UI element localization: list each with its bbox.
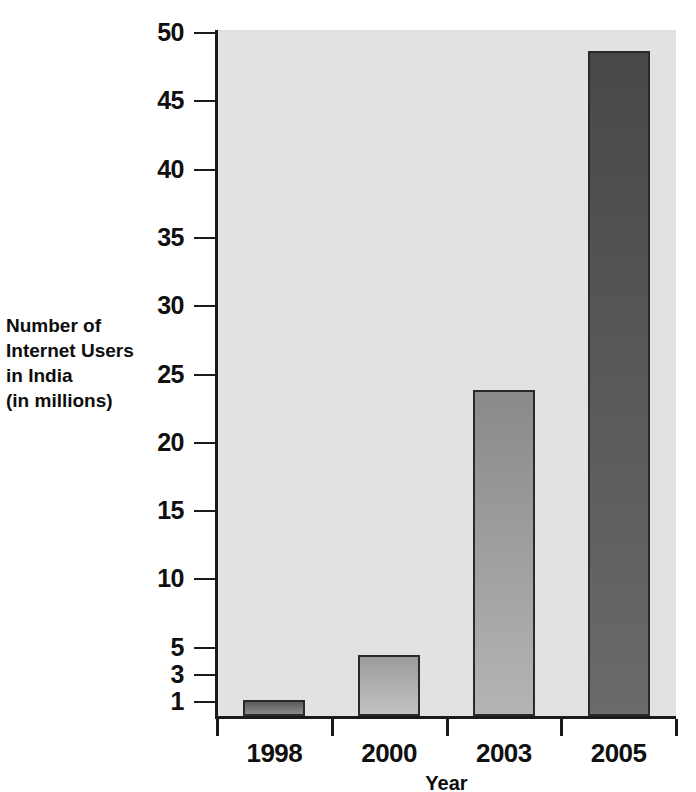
- x-axis-tick-label-2005: 2005: [561, 740, 676, 766]
- x-axis-tick-label-2000: 2000: [332, 740, 447, 766]
- y-axis-tick-label: 45: [140, 88, 184, 113]
- y-axis-tick-label: 10: [140, 566, 184, 591]
- bar-1998: [243, 700, 305, 716]
- y-axis-line: [215, 30, 218, 719]
- y-axis-title: Number of Internet Users in India (in mi…: [6, 313, 156, 413]
- x-axis-tick: [675, 719, 678, 736]
- y-axis-tick: [194, 647, 215, 649]
- y-axis-tick-label: 1: [140, 689, 184, 714]
- y-axis-tick: [194, 674, 215, 676]
- x-axis-tick: [331, 719, 334, 736]
- y-axis-tick: [194, 701, 215, 703]
- x-axis-tick: [446, 719, 449, 736]
- y-axis-tick: [194, 305, 215, 307]
- y-axis-tick-label: 15: [140, 498, 184, 523]
- y-axis-tick: [194, 510, 215, 512]
- y-axis-tick: [194, 169, 215, 171]
- y-axis-tick: [194, 578, 215, 580]
- y-axis-tick-label: 3: [140, 662, 184, 687]
- y-axis-title-line-2: Internet Users: [6, 338, 156, 363]
- y-axis-tick: [194, 100, 215, 102]
- x-axis-tick-label-1998: 1998: [217, 740, 332, 766]
- y-axis-tick: [194, 237, 215, 239]
- y-axis-tick: [194, 374, 215, 376]
- bar-chart: 135101520253035404550 1998200020032005 N…: [0, 0, 696, 792]
- y-axis-title-line-3: in India: [6, 363, 156, 388]
- x-axis-title: Year: [217, 772, 676, 792]
- x-axis-tick-label-2003: 2003: [447, 740, 562, 766]
- y-axis-tick-label: 40: [140, 157, 184, 182]
- y-axis-tick-label: 5: [140, 635, 184, 660]
- x-axis-tick: [216, 719, 219, 736]
- bar-2000: [358, 655, 420, 716]
- y-axis-tick: [194, 442, 215, 444]
- y-axis-tick-label: 35: [140, 225, 184, 250]
- y-axis-tick-label: 50: [140, 20, 184, 45]
- bar-2005: [588, 51, 650, 716]
- y-axis-title-line-1: Number of: [6, 313, 156, 338]
- y-axis-title-line-4: (in millions): [6, 388, 156, 413]
- bar-2003: [473, 390, 535, 716]
- y-axis-tick-label: 20: [140, 430, 184, 455]
- x-axis-tick: [560, 719, 563, 736]
- y-axis-tick: [194, 32, 215, 34]
